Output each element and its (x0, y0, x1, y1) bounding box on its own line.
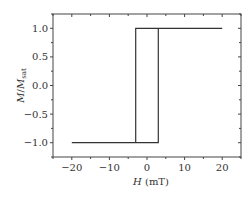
y-tick-label: −0.5 (24, 109, 48, 120)
hysteresis-chart: −20−1001020−1.0−0.50.00.51.0H (mT)M/Msat (0, 0, 251, 197)
y-tick-label: 0.5 (32, 51, 48, 62)
series-line-hysteresis-loop (72, 28, 222, 142)
x-tick-label: 0 (144, 162, 150, 173)
x-axis-label-unit: (mT) (142, 176, 169, 187)
y-axis-label-m: M (15, 92, 26, 104)
x-tick-label: 10 (178, 162, 191, 173)
y-axis-label-subscript: sat (20, 68, 28, 79)
y-tick-label: 1.0 (32, 23, 48, 34)
x-axis-label-symbol: H (132, 176, 142, 187)
x-axis-label: H (mT) (132, 176, 169, 187)
x-tick-label: −10 (99, 162, 120, 173)
y-tick-label: −1.0 (24, 137, 48, 148)
x-tick-label: −20 (61, 162, 82, 173)
y-axis-label-msat: M (15, 78, 26, 90)
y-tick-label: 0.0 (32, 80, 48, 91)
y-axis-label: M/Msat (15, 68, 28, 104)
plot-frame (53, 14, 241, 157)
x-tick-label: 20 (216, 162, 229, 173)
